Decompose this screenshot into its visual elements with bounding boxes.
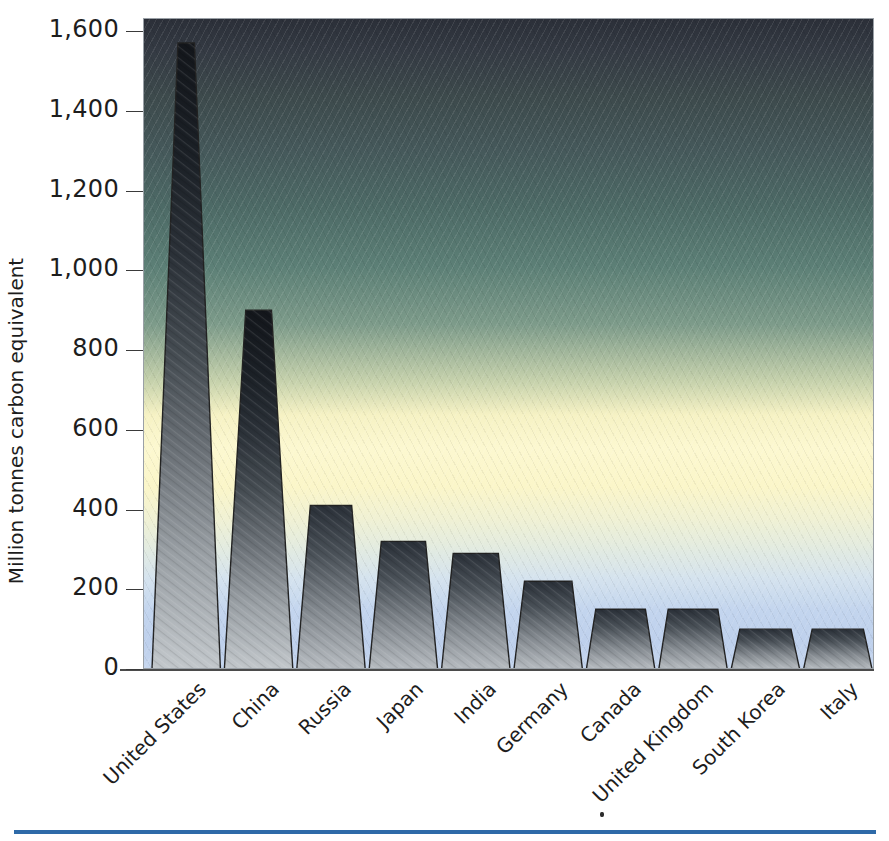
bar-texture [659,609,727,669]
scan-artifact-dot [600,812,604,817]
bar-texture [804,629,872,669]
y-axis-tick-mark [126,191,143,192]
y-axis-tick-label: 200 [72,573,119,601]
y-axis-tick-mark [126,510,143,511]
bar-texture [297,506,365,669]
x-axis-tick-label: United States [98,677,211,790]
bar-texture [731,629,799,669]
x-axis-tick-label: China [226,677,283,734]
bar-texture [152,43,220,669]
y-axis-tick-label: 1,400 [49,95,119,123]
y-axis-tick-mark [126,111,143,112]
x-axis-tick-label: Russia [294,677,356,739]
y-axis-tick-label: 1,600 [49,15,119,43]
bars-layer [143,18,874,669]
x-axis-labels: United StatesChinaRussiaJapanIndiaGerman… [0,669,889,839]
x-axis-tick-label: India [449,677,501,729]
chart-figure: 02004006008001,0001,2001,4001,600 Millio… [0,0,889,841]
y-axis-tick-label: 1,000 [49,254,119,282]
y-axis-tick-mark [126,270,143,271]
bars-svg [143,18,874,669]
x-axis-tick-label: Italy [815,677,863,725]
x-axis-tick-label: Germany [491,677,573,759]
y-axis-tick-label: 600 [72,414,119,442]
y-axis-title: Million tonnes carbon equivalent [4,206,28,636]
y-axis-tick-label: 1,200 [49,175,119,203]
y-axis-tick-mark [126,589,143,590]
y-axis-tick-mark [126,430,143,431]
x-axis-tick-label: United Kingdom [587,677,717,807]
bar-texture [514,581,582,669]
plot-area [143,18,874,669]
x-axis-tick-label: Canada [575,677,646,748]
y-axis-tick-mark [126,350,143,351]
y-axis-tick-label: 400 [72,494,119,522]
bottom-divider-rule [14,830,876,834]
bar-texture [442,553,510,669]
x-axis-tick-label: Japan [372,677,428,733]
bar-texture [586,609,654,669]
y-axis-tick-label: 800 [72,334,119,362]
y-axis-tick-mark [126,31,143,32]
